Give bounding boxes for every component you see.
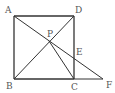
label-a: A: [4, 5, 12, 15]
label-b: B: [6, 81, 13, 91]
label-d: D: [75, 5, 82, 15]
segment-af: [14, 16, 103, 79]
label-p: P: [47, 29, 53, 39]
geometry-diagram: A D B C P E F: [0, 0, 115, 93]
diagonal-bd: [14, 16, 74, 79]
segment-pc: [49, 41, 74, 79]
label-c: C: [71, 82, 78, 92]
label-e: E: [76, 47, 83, 57]
label-f: F: [106, 80, 112, 90]
